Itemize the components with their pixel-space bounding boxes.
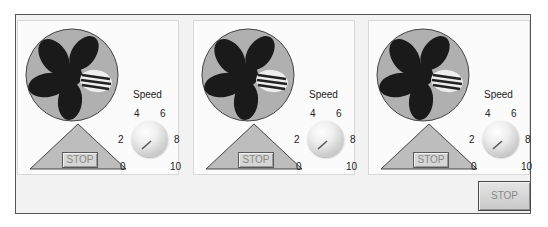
tick-4: 4: [134, 108, 140, 119]
speed-knob[interactable]: [308, 121, 344, 157]
tick-2: 2: [469, 134, 475, 145]
knob-pointer-icon: [132, 121, 168, 157]
speed-knob-control: 0 2 4 6 8 10: [469, 101, 533, 171]
tick-0: 0: [120, 161, 126, 172]
tick-0: 0: [471, 161, 477, 172]
speed-knob-control: 0 2 4 6 8 10: [118, 101, 182, 171]
speed-label: Speed: [484, 89, 513, 100]
fan-stop-button[interactable]: STOP: [413, 152, 449, 168]
fan-icon: [200, 27, 296, 123]
fan-stop-button[interactable]: STOP: [238, 152, 274, 168]
tick-6: 6: [511, 108, 517, 119]
tick-10: 10: [170, 161, 181, 172]
tick-6: 6: [336, 108, 342, 119]
fan-panel-3: STOP Speed 0 2 4 6 8 10: [368, 20, 530, 175]
tick-2: 2: [118, 134, 124, 145]
tick-8: 8: [350, 134, 356, 145]
fan-icon: [24, 27, 120, 123]
speed-label: Speed: [309, 89, 338, 100]
knob-pointer-icon: [483, 121, 519, 157]
tick-0: 0: [296, 161, 302, 172]
knob-pointer-icon: [308, 121, 344, 157]
front-panel: STOP Speed 0 2 4 6 8 10: [15, 14, 531, 214]
tick-4: 4: [485, 108, 491, 119]
tick-8: 8: [174, 134, 180, 145]
tick-6: 6: [160, 108, 166, 119]
fan-icon: [375, 27, 471, 123]
speed-knob[interactable]: [132, 121, 168, 157]
tick-10: 10: [346, 161, 357, 172]
tick-4: 4: [310, 108, 316, 119]
speed-label: Speed: [133, 89, 162, 100]
speed-knob[interactable]: [483, 121, 519, 157]
tick-8: 8: [525, 134, 531, 145]
tick-2: 2: [294, 134, 300, 145]
main-stop-button[interactable]: STOP: [478, 181, 531, 211]
fan-panel-2: STOP Speed 0 2 4 6 8 10: [193, 20, 355, 175]
tick-10: 10: [521, 161, 532, 172]
speed-knob-control: 0 2 4 6 8 10: [294, 101, 358, 171]
fan-stop-button[interactable]: STOP: [62, 152, 98, 168]
fan-panel-1: STOP Speed 0 2 4 6 8 10: [17, 20, 179, 175]
